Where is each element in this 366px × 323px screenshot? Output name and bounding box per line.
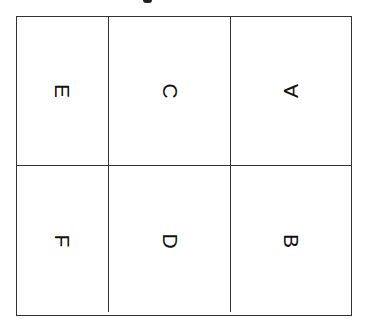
cell-label: B xyxy=(279,233,303,247)
cell-d: D xyxy=(109,166,230,315)
cell-e: E xyxy=(17,17,108,165)
cell-a: A xyxy=(231,17,351,165)
cell-label: E xyxy=(50,84,74,98)
cell-label: F xyxy=(50,234,74,247)
cell-label: D xyxy=(157,233,181,248)
cell-label: A xyxy=(279,84,303,98)
cell-f: F xyxy=(17,166,108,315)
cell-label: C xyxy=(157,83,181,98)
cropped-title-fragment xyxy=(143,0,152,3)
cell-c: C xyxy=(109,17,230,165)
grid-diagram: E C A F D B xyxy=(16,16,352,316)
cell-b: B xyxy=(231,166,351,315)
